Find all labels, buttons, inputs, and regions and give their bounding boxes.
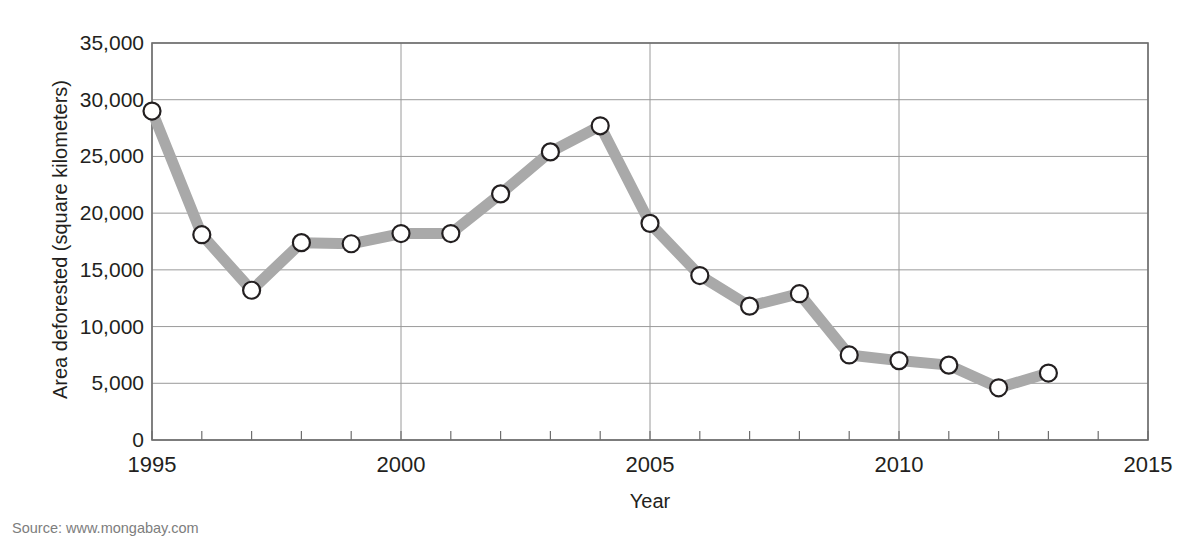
x-axis-title: Year [630, 490, 670, 513]
x-axis-tick-labels: 19952000200520102015 [0, 0, 1201, 549]
deforestation-line-chart: Deforestation Rates in Brazil Area defor… [0, 0, 1201, 549]
x-tick-label: 2005 [626, 452, 675, 478]
x-tick-label: 2015 [1124, 452, 1173, 478]
x-tick-label: 1995 [128, 452, 177, 478]
x-tick-label: 2000 [377, 452, 426, 478]
x-tick-label: 2010 [875, 452, 924, 478]
source-note: Source: www.mongabay.com [12, 520, 199, 536]
